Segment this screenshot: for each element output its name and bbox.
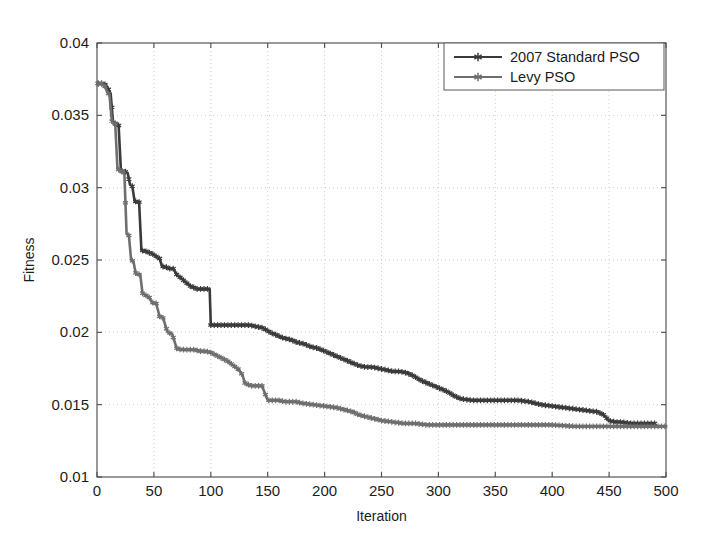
series-markers: [96, 81, 668, 430]
series-line: [98, 84, 666, 427]
x-tick-label: 400: [540, 482, 565, 499]
series-2: [96, 81, 668, 430]
axis-ticks: 0501001502002503003504004505000.010.0150…: [51, 34, 678, 499]
y-tick-label: 0.03: [60, 179, 89, 196]
y-tick-label: 0.035: [51, 106, 89, 123]
series-line: [98, 84, 654, 424]
x-tick-label: 150: [255, 482, 280, 499]
y-axis-title: Fitness: [21, 237, 37, 282]
x-tick-label: 250: [369, 482, 394, 499]
grid-lines: [97, 43, 666, 477]
chart-legend[interactable]: 2007 Standard PSOLevy PSO: [444, 43, 664, 90]
x-tick-label: 0: [93, 482, 101, 499]
y-tick-label: 0.02: [60, 323, 89, 340]
x-tick-label: 500: [653, 482, 678, 499]
x-tick-label: 300: [426, 482, 451, 499]
y-tick-label: 0.015: [51, 396, 89, 413]
y-tick-label: 0.01: [60, 468, 89, 485]
series-markers: [96, 81, 658, 427]
series-1: [96, 81, 658, 427]
fitness-convergence-chart: 0501001502002503003504004505000.010.0150…: [0, 0, 713, 552]
legend-label: 2007 Standard PSO: [510, 49, 640, 65]
legend-label: Levy PSO: [510, 69, 575, 85]
y-tick-label: 0.04: [60, 34, 89, 51]
data-series: [96, 81, 668, 430]
x-tick-label: 350: [483, 482, 508, 499]
x-tick-label: 50: [146, 482, 163, 499]
x-axis-title: Iteration: [356, 508, 407, 524]
y-tick-label: 0.025: [51, 251, 89, 268]
x-tick-label: 450: [597, 482, 622, 499]
figure-canvas: 0501001502002503003504004505000.010.0150…: [0, 0, 713, 552]
x-tick-label: 200: [312, 482, 337, 499]
x-tick-label: 100: [198, 482, 223, 499]
